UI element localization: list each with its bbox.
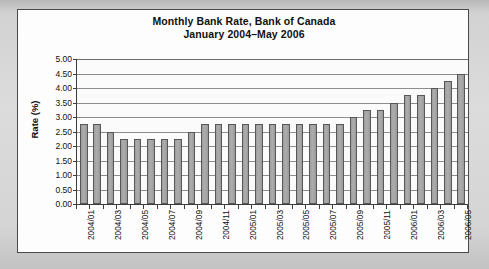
y-axis-tick [73,146,77,147]
bar [201,124,209,204]
y-axis-tick-label: 1.00 [38,171,72,180]
chart-title-line-1: Monthly Bank Rate, Bank of Canada [153,15,336,27]
bar [215,124,223,204]
x-axis-tick [211,205,212,209]
x-axis-tick [305,205,306,209]
y-axis-tick-label: 2.50 [38,128,72,137]
x-axis-tick-label: 2006/03 [437,210,446,250]
y-axis-tick [73,175,77,176]
y-axis-tick [73,59,77,60]
x-axis-tick [359,205,360,209]
x-axis-tick-label: 2005/01 [249,210,258,250]
y-axis-tick-label: 4.50 [38,70,72,79]
gridline [77,88,468,89]
bar [134,139,142,204]
bar [377,110,385,204]
bar [282,124,290,204]
x-axis-tick-label: 2004/11 [222,210,231,250]
bar [309,124,317,204]
bar [296,124,304,204]
chart-panel: Monthly Bank Rate, Bank of Canada Januar… [17,9,469,253]
bar [444,81,452,204]
bar [457,74,465,205]
x-axis-tick [440,205,441,209]
x-axis-tick [103,205,104,209]
y-axis-tick-label: 4.00 [38,84,72,93]
chart-title: Monthly Bank Rate, Bank of Canada Januar… [18,15,470,41]
x-axis-labels: 2004/012004/032004/052004/072004/092004/… [76,210,468,252]
y-axis-labels: 5.004.504.003.503.002.502.001.501.000.50… [32,59,72,204]
y-axis-tick-label: 3.50 [38,99,72,108]
x-axis-tick [197,205,198,209]
bar [188,132,196,205]
bar [431,88,439,204]
bar [174,139,182,204]
y-axis-tick [73,117,77,118]
x-axis-tick-label: 2004/07 [168,210,177,250]
x-axis-tick-label: 2005/09 [356,210,365,250]
x-axis-tick [319,205,320,209]
x-axis-tick [89,205,90,209]
x-axis-tick-label: 2004/01 [87,210,96,250]
bar [323,124,331,204]
x-axis-tick [130,205,131,209]
bar [350,117,358,204]
x-axis-tick-label: 2006/01 [410,210,419,250]
bar [404,95,412,204]
y-axis-tick [73,161,77,162]
x-axis-tick-label: 2004/05 [141,210,150,250]
bar [147,139,155,204]
x-axis-tick-label: 2005/11 [383,210,392,250]
x-axis-tick [400,205,401,209]
bar [93,124,101,204]
x-axis-tick [292,205,293,209]
x-axis-tick [413,205,414,209]
x-axis-tick [224,205,225,209]
x-axis-tick [332,205,333,209]
x-axis-tick-label: 2005/07 [329,210,338,250]
gridline [77,74,468,75]
y-axis-tick [73,103,77,104]
x-axis-tick [170,205,171,209]
bar [336,124,344,204]
y-axis-tick [73,74,77,75]
x-axis-tick-label: 2005/03 [276,210,285,250]
chart-title-line-2: January 2004–May 2006 [18,28,470,41]
plot-area [76,59,468,205]
bar [390,103,398,205]
x-axis-tick [265,205,266,209]
y-axis-tick-label: 3.00 [38,113,72,122]
gridline [77,59,468,60]
bar [228,124,236,204]
x-axis-tick [278,205,279,209]
y-axis-tick-label: 0.00 [38,200,72,209]
x-axis-tick [251,205,252,209]
x-axis-tick-label: 2005/05 [302,210,311,250]
x-axis-tick [76,205,77,209]
x-axis-tick-label: 2006/05 [464,210,473,250]
x-axis-tick-label: 2004/03 [114,210,123,250]
y-axis-tick [73,190,77,191]
x-axis-tick [184,205,185,209]
x-axis-tick [116,205,117,209]
bar [120,139,128,204]
y-axis-tick-label: 2.00 [38,142,72,151]
y-axis-tick [73,88,77,89]
bar [269,124,277,204]
x-axis-tick [157,205,158,209]
bar [417,95,425,204]
x-axis-tick [143,205,144,209]
x-axis-tick [373,205,374,209]
x-axis-tick [386,205,387,209]
y-axis-tick-label: 0.50 [38,186,72,195]
x-axis-tick [238,205,239,209]
x-axis-tick-label: 2004/09 [195,210,204,250]
x-axis-tick [346,205,347,209]
bar [255,124,263,204]
y-axis-tick-label: 5.00 [38,55,72,64]
bar [363,110,371,204]
y-axis-tick [73,132,77,133]
bar [161,139,169,204]
x-axis-tick [454,205,455,209]
bar [80,124,88,204]
